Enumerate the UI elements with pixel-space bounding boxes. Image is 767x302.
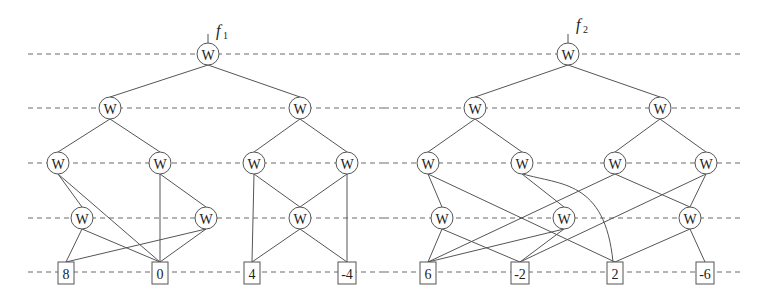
weight-node: W: [695, 152, 717, 174]
output-labels: f1f2: [216, 16, 588, 41]
tree-edge: [58, 174, 82, 207]
node-label: W: [699, 157, 713, 172]
node-label: -2: [514, 267, 526, 282]
tree-edge: [160, 174, 206, 207]
weight-node: W: [511, 152, 533, 174]
node-label: 8: [63, 267, 70, 282]
weight-node: W: [557, 43, 579, 65]
leaf-value-node: 2: [607, 262, 623, 284]
weight-node: W: [649, 97, 671, 119]
tree-edge: [428, 229, 442, 262]
weight-node: W: [464, 97, 486, 119]
tree-edge: [690, 174, 706, 207]
weight-node: W: [71, 207, 93, 229]
weight-node: W: [553, 207, 575, 229]
leaf-value-node: 8: [58, 262, 74, 284]
weight-node: W: [243, 152, 265, 174]
tree-edge: [208, 65, 300, 97]
output-function-label: f: [576, 16, 583, 34]
weight-node: W: [197, 43, 219, 65]
tree-edge: [428, 229, 564, 262]
node-label: -4: [341, 267, 353, 282]
node-label: 2: [612, 267, 619, 282]
node-label: W: [653, 102, 667, 117]
tree-edge: [66, 229, 82, 262]
tree-edge: [66, 229, 206, 262]
weight-node: W: [47, 152, 69, 174]
weight-node: W: [417, 152, 439, 174]
level-guide-lines: [28, 54, 743, 272]
node-label: W: [51, 157, 65, 172]
weight-node: W: [289, 207, 311, 229]
node-label: W: [435, 212, 449, 227]
output-function-subscript: 1: [223, 30, 228, 41]
tree-edge: [615, 174, 690, 207]
tree-edge: [300, 174, 347, 207]
tree-edge: [442, 229, 520, 262]
tree-edge: [615, 119, 660, 152]
weight-node: W: [99, 97, 121, 119]
node-label: 0: [157, 267, 164, 282]
leaf-value-node: 0: [152, 262, 168, 284]
tree-edge: [660, 119, 706, 152]
tree-edge: [475, 65, 568, 97]
node-label: W: [557, 212, 571, 227]
tree-edge: [615, 229, 690, 262]
tree-edge: [300, 119, 347, 152]
weight-node: W: [336, 152, 358, 174]
weight-node: W: [289, 97, 311, 119]
tree-edge: [82, 229, 160, 262]
node-label: W: [75, 212, 89, 227]
weight-node: W: [149, 152, 171, 174]
leaf-value-node: 6: [420, 262, 436, 284]
output-function-label: f: [216, 22, 223, 40]
node-label: W: [247, 157, 261, 172]
node-label: W: [608, 157, 622, 172]
tree-edge: [428, 119, 475, 152]
leaf-value-node: -4: [338, 262, 356, 284]
node-label: W: [293, 102, 307, 117]
node-label: 6: [425, 267, 432, 282]
tree-edge: [58, 119, 110, 152]
weight-node: W: [431, 207, 453, 229]
node-label: -6: [699, 267, 711, 282]
weight-node: W: [679, 207, 701, 229]
tree-edge: [254, 119, 300, 152]
node-label: W: [561, 48, 575, 63]
tree-edge: [110, 65, 208, 97]
tree-edge: [110, 119, 160, 152]
tree-edge: [475, 119, 522, 152]
tree-edge: [300, 229, 347, 262]
leaf-value-node: -2: [511, 262, 529, 284]
node-label: W: [293, 212, 307, 227]
node-label: W: [199, 212, 213, 227]
tree-edge: [690, 229, 705, 262]
node-label: W: [340, 157, 354, 172]
weight-tree-diagram: WWWWWWWWWW804-4WWWWWWWWWW6-22-6 f1f2: [0, 0, 767, 302]
tree-edge: [428, 174, 442, 207]
weight-node: W: [604, 152, 626, 174]
node-label: W: [153, 157, 167, 172]
node-label: W: [421, 157, 435, 172]
tree-edge: [568, 65, 660, 97]
node-label: W: [201, 48, 215, 63]
tree-edge: [254, 174, 300, 207]
node-label: W: [103, 102, 117, 117]
weight-node: W: [195, 207, 217, 229]
tree-edges: [58, 34, 706, 262]
output-function-subscript: 2: [583, 24, 588, 35]
node-label: W: [515, 157, 529, 172]
node-label: W: [468, 102, 482, 117]
leaf-value-node: 4: [244, 262, 260, 284]
node-label: W: [683, 212, 697, 227]
tree-edge: [252, 229, 300, 262]
node-label: 4: [249, 267, 256, 282]
leaf-value-node: -6: [696, 262, 714, 284]
